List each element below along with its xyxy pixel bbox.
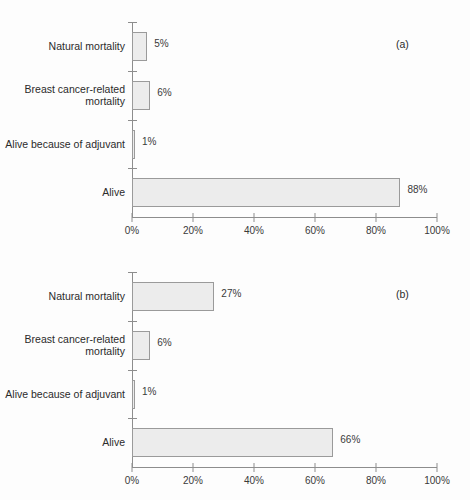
value-axis-tick [132,463,133,472]
value-axis-tick [132,213,133,222]
plot-area-a: 0% 20% 40% 60% 80% 100% 5% 6% 1% 88% [132,22,437,217]
bar[interactable] [132,380,135,409]
category-axis-tick [128,418,137,419]
chart-panel-b: (b) Natural mortality Breast cancer-rela… [0,250,470,500]
bar[interactable] [132,428,333,457]
bar-value-label: 5% [154,38,168,49]
value-axis-tick-label: 80% [366,475,386,486]
value-axis-tick [376,463,377,472]
category-label: Alive because of adjuvant [0,120,125,169]
category-label: Alive [0,168,125,217]
value-axis-tick [254,213,255,222]
value-axis-line [132,217,437,218]
bar-value-label: 88% [407,184,427,195]
bar-value-label: 1% [142,386,156,397]
value-axis-tick-label: 60% [305,475,325,486]
value-axis-tick-label: 40% [244,475,264,486]
chart-panel-a: (a) Natural mortality Breast cancer-rela… [0,0,470,250]
value-axis-tick [254,463,255,472]
plot-area-b: 0% 20% 40% 60% 80% 100% 27% 6% 1% 66% [132,272,437,467]
category-axis-cap-tick [128,272,137,273]
bar[interactable] [132,331,150,360]
category-label: Breast cancer-related mortality [0,321,125,370]
bar-value-label: 1% [142,136,156,147]
category-axis-cap-tick [128,22,137,23]
category-label: Natural mortality [0,272,125,321]
value-axis-tick-label: 60% [305,225,325,236]
value-axis-tick-label: 0% [125,225,139,236]
category-label: Alive [0,418,125,467]
value-axis-tick-label: 100% [424,225,450,236]
value-axis-line [132,467,437,468]
category-label: Alive because of adjuvant [0,370,125,419]
bar-value-label: 66% [340,434,360,445]
bar[interactable] [132,282,214,311]
value-axis-tick [376,213,377,222]
category-axis-labels-a: Natural mortality Breast cancer-related … [0,22,125,217]
value-axis-tick [193,213,194,222]
bar[interactable] [132,81,150,110]
value-axis-tick-label: 100% [424,475,450,486]
bar-value-label: 6% [157,337,171,348]
category-axis-tick [128,168,137,169]
category-axis-tick [128,370,137,371]
category-axis-tick [128,321,137,322]
category-axis-labels-b: Natural mortality Breast cancer-related … [0,272,125,467]
value-axis-tick-label: 80% [366,225,386,236]
value-axis-tick-label: 20% [183,225,203,236]
category-axis-tick [128,71,137,72]
bar[interactable] [132,130,135,159]
category-label: Breast cancer-related mortality [0,71,125,120]
bar-value-label: 6% [157,87,171,98]
bar[interactable] [132,178,400,207]
value-axis-tick-label: 20% [183,475,203,486]
value-axis-tick [437,463,438,472]
value-axis-tick [437,213,438,222]
value-axis-tick [193,463,194,472]
value-axis-tick-label: 40% [244,225,264,236]
category-axis-tick [128,120,137,121]
category-label: Natural mortality [0,22,125,71]
value-axis-tick [315,463,316,472]
figure-container: (a) Natural mortality Breast cancer-rela… [0,0,470,500]
value-axis-tick [315,213,316,222]
bar[interactable] [132,32,147,61]
bar-value-label: 27% [221,288,241,299]
value-axis-tick-label: 0% [125,475,139,486]
